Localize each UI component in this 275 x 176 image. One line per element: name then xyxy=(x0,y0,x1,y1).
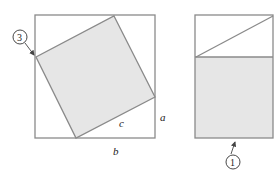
callout-3: 3 xyxy=(13,30,34,55)
label-b: b xyxy=(113,145,119,157)
callout-arrow-icon xyxy=(25,43,34,55)
left-panel: c a b 3 xyxy=(13,15,166,157)
callout-1: 1 xyxy=(226,142,240,169)
diagonal-line xyxy=(196,16,273,57)
callout-number: 1 xyxy=(230,157,235,168)
label-a: a xyxy=(160,111,166,123)
pythagorean-diagram: c a b 3 1 xyxy=(0,0,275,176)
callout-arrow-icon xyxy=(231,142,235,154)
callout-number: 3 xyxy=(17,32,22,43)
right-panel: 1 xyxy=(195,15,273,169)
label-c: c xyxy=(119,117,124,129)
lower-shaded-rect xyxy=(195,57,273,138)
